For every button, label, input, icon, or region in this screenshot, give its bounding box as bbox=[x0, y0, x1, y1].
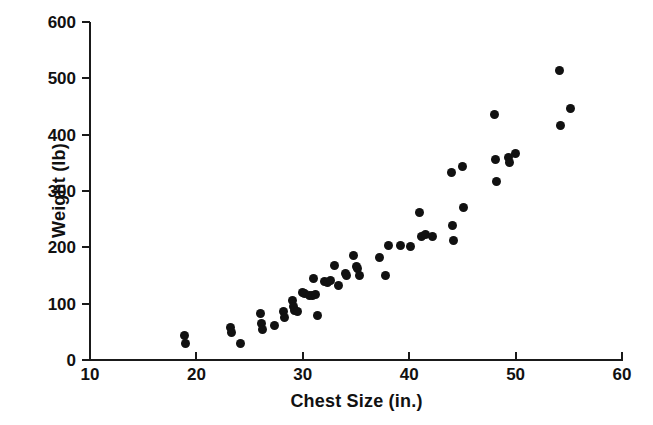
x-tick-label: 20 bbox=[187, 366, 206, 383]
data-point bbox=[491, 155, 500, 164]
data-point bbox=[256, 309, 265, 318]
data-point bbox=[342, 271, 351, 280]
data-point bbox=[511, 149, 520, 158]
y-tick-mark bbox=[82, 246, 90, 248]
data-point bbox=[505, 158, 514, 167]
scatter-plot-figure: Weight (lb) 1020304050600100200300400500… bbox=[0, 0, 653, 425]
data-point bbox=[384, 241, 393, 250]
y-tick-mark bbox=[82, 359, 90, 361]
data-point bbox=[396, 241, 405, 250]
data-point bbox=[448, 221, 457, 230]
data-point bbox=[258, 325, 267, 334]
data-point bbox=[555, 66, 564, 75]
data-point bbox=[458, 162, 467, 171]
y-tick-label: 0 bbox=[0, 352, 76, 369]
x-axis-label: Chest Size (in.) bbox=[90, 391, 623, 412]
y-tick-label: 200 bbox=[0, 239, 76, 256]
y-tick-label: 600 bbox=[0, 14, 76, 31]
x-tick-label: 10 bbox=[81, 366, 100, 383]
data-point bbox=[236, 339, 245, 348]
data-point bbox=[447, 168, 456, 177]
plot-area bbox=[90, 22, 622, 360]
data-point bbox=[566, 104, 575, 113]
data-point bbox=[490, 110, 499, 119]
data-point bbox=[349, 251, 358, 260]
data-point bbox=[375, 253, 384, 262]
data-point bbox=[227, 328, 236, 337]
data-point bbox=[406, 242, 415, 251]
data-point bbox=[355, 271, 364, 280]
data-point bbox=[556, 121, 565, 130]
data-point bbox=[415, 208, 424, 217]
data-point bbox=[313, 311, 322, 320]
y-tick-mark bbox=[82, 134, 90, 136]
data-point bbox=[459, 203, 468, 212]
data-point bbox=[492, 177, 501, 186]
x-tick-label: 40 bbox=[400, 366, 419, 383]
y-tick-label: 300 bbox=[0, 183, 76, 200]
data-point bbox=[311, 290, 320, 299]
y-tick-mark bbox=[82, 21, 90, 23]
data-point bbox=[309, 274, 318, 283]
data-point bbox=[381, 271, 390, 280]
y-tick-mark bbox=[82, 190, 90, 192]
x-tick-label: 30 bbox=[293, 366, 312, 383]
data-point bbox=[334, 281, 343, 290]
y-tick-label: 500 bbox=[0, 70, 76, 87]
x-tick-label: 50 bbox=[506, 366, 525, 383]
data-point bbox=[280, 313, 289, 322]
y-tick-mark bbox=[82, 77, 90, 79]
data-point bbox=[449, 236, 458, 245]
data-point bbox=[293, 307, 302, 316]
y-tick-mark bbox=[82, 303, 90, 305]
data-point bbox=[181, 339, 190, 348]
y-tick-label: 100 bbox=[0, 295, 76, 312]
data-point bbox=[330, 261, 339, 270]
x-tick-label: 60 bbox=[613, 366, 632, 383]
y-tick-label: 400 bbox=[0, 126, 76, 143]
data-point bbox=[270, 321, 279, 330]
data-point bbox=[428, 232, 437, 241]
